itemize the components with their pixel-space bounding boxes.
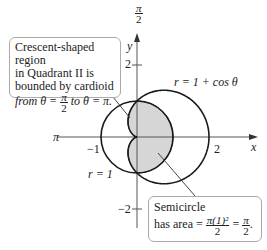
left-angle-label: π — [53, 131, 59, 143]
top-angle-label: π2 — [135, 3, 143, 24]
crescent-callout: Crescent-shaped region in Quadrant II is… — [9, 37, 121, 98]
crescent-callout-line1: Crescent-shaped region — [15, 41, 115, 67]
y-axis-label: y — [127, 40, 132, 52]
semicircle-callout-line2: has area = π(1)²2 = π2. — [154, 215, 256, 236]
x-tick-label-2: 2 — [214, 143, 220, 155]
x-axis-label: x — [251, 141, 256, 153]
semicircle-callout-line1: Semicircle — [154, 201, 256, 214]
circle-label: r = 1 — [88, 168, 113, 180]
y-axis-arrow-icon — [134, 33, 140, 42]
semicircle-callout: Semicircle has area = π(1)²2 = π2. — [148, 196, 262, 242]
cardioid-label: r = 1 + cos θ — [174, 76, 238, 88]
y-tick-label-2: 2 — [125, 58, 131, 70]
x-tick-label-neg1: −1 — [87, 143, 100, 155]
y-tick-label-neg2: −2 — [118, 203, 131, 215]
crescent-callout-line4: from θ = π2 to θ = π. — [15, 92, 115, 113]
